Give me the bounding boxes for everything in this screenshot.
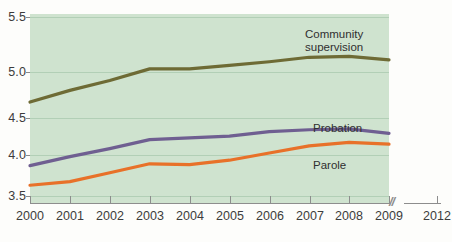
series-label-parole: Parole [313,159,346,172]
series-label-community-line1: Community [305,28,363,40]
series-label-probation: Probation [313,122,362,135]
series-lines [0,0,452,242]
chart-root: . 5.5 5.0 4.5 4.0 3.5 // 2000 2001 2002 … [0,0,452,242]
series-label-community-supervision: Communitysupervision [305,28,363,53]
series-label-community-line2: supervision [305,41,363,53]
series-line-community-supervision [30,56,389,102]
